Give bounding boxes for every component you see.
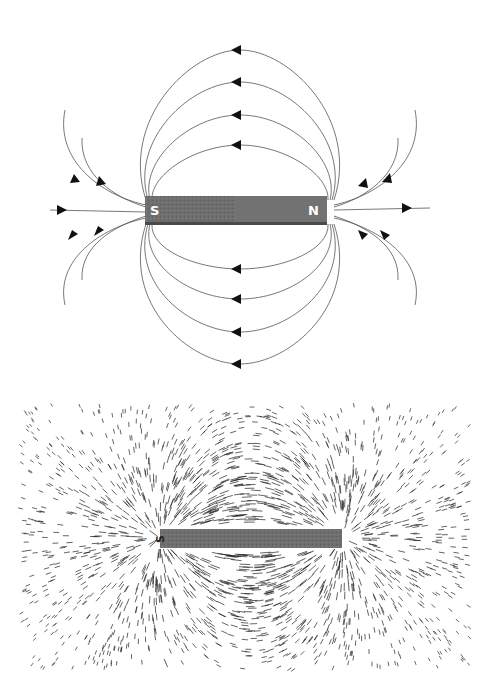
magnet-field-figure: S N S — [0, 0, 489, 685]
south-pole-label-bottom: S — [154, 535, 167, 543]
north-pole-label: N — [308, 203, 319, 218]
bar-magnet-bottom: S — [154, 527, 344, 549]
south-pole-label: S — [150, 203, 159, 218]
bar-magnet-top: S N — [145, 196, 327, 225]
